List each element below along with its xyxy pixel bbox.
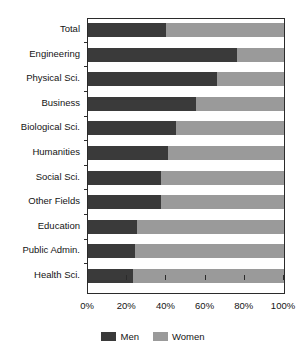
bar-segment-men: [88, 23, 166, 37]
y-axis-tick: [84, 189, 88, 190]
x-axis-tick-label: 60%: [195, 300, 214, 311]
x-axis-tick: [205, 275, 206, 280]
x-axis-tick: [126, 275, 127, 280]
bar-segment-women: [161, 195, 284, 209]
bar-row: [88, 269, 284, 283]
bar-segment-women: [168, 146, 284, 160]
y-axis-tick: [84, 165, 88, 166]
bar-row: [88, 244, 284, 258]
plot-area: [87, 18, 285, 294]
bar-row: [88, 48, 284, 62]
bar-row: [88, 195, 284, 209]
bar-row: [88, 171, 284, 185]
x-axis-tick-labels: 0%20%40%60%80%100%: [0, 300, 306, 314]
y-axis-tick: [84, 91, 88, 92]
y-axis-tick: [84, 263, 88, 264]
x-axis-tick-label: 20%: [117, 300, 136, 311]
y-axis-label-other-fields: Other Fields: [0, 196, 80, 206]
bar-segment-men: [88, 48, 237, 62]
legend-label-women: Women: [172, 331, 205, 342]
bar-row: [88, 121, 284, 135]
x-axis-tick-label: 100%: [271, 300, 295, 311]
x-axis-tick: [87, 275, 88, 280]
legend-swatch-women: [153, 332, 168, 341]
y-axis-label-engineering: Engineering: [0, 49, 80, 59]
bar-segment-men: [88, 121, 176, 135]
legend-label-men: Men: [120, 331, 138, 342]
bar-segment-men: [88, 195, 161, 209]
y-axis-tick: [84, 42, 88, 43]
y-axis-label-social-sci: Social Sci.: [0, 172, 80, 182]
bar-row: [88, 220, 284, 234]
x-axis-tick: [283, 275, 284, 280]
y-axis-category-labels: TotalEngineeringPhysical Sci.BusinessBio…: [0, 18, 84, 292]
bar-segment-men: [88, 244, 135, 258]
y-axis-tick: [84, 140, 88, 141]
y-axis-label-biological-sci: Biological Sci.: [0, 122, 80, 132]
bar-row: [88, 72, 284, 86]
legend-item-men[interactable]: Men: [101, 331, 138, 342]
x-axis-tick-label: 40%: [156, 300, 175, 311]
bar-segment-women: [196, 97, 284, 111]
legend-item-women[interactable]: Women: [153, 331, 205, 342]
y-axis-tick: [84, 214, 88, 215]
chart-legend: MenWomen: [0, 331, 306, 342]
y-axis-tick: [84, 116, 88, 117]
bar-segment-men: [88, 146, 168, 160]
bar-segment-women: [166, 23, 284, 37]
bar-segment-men: [88, 171, 161, 185]
y-axis-tick: [84, 66, 88, 67]
bar-segment-women: [133, 269, 284, 283]
bar-segment-women: [135, 244, 284, 258]
x-axis-tick: [165, 275, 166, 280]
bar-row: [88, 23, 284, 37]
y-axis-label-public-admin: Public Admin.: [0, 245, 80, 255]
y-axis-label-total: Total: [0, 24, 80, 34]
y-axis-label-humanities: Humanities: [0, 147, 80, 157]
y-axis-label-physical-sci: Physical Sci.: [0, 73, 80, 83]
bar-segment-men: [88, 220, 137, 234]
y-axis-tick: [84, 239, 88, 240]
bar-segment-women: [217, 72, 284, 86]
y-axis-label-health-sci: Health Sci.: [0, 270, 80, 280]
bar-segment-women: [176, 121, 284, 135]
stacked-bar-chart: TotalEngineeringPhysical Sci.BusinessBio…: [0, 0, 306, 359]
bar-segment-men: [88, 97, 196, 111]
bar-segment-women: [137, 220, 284, 234]
bar-segment-women: [237, 48, 284, 62]
bar-segment-men: [88, 72, 217, 86]
y-axis-label-education: Education: [0, 221, 80, 231]
legend-swatch-men: [101, 332, 116, 341]
bar-row: [88, 146, 284, 160]
y-axis-label-business: Business: [0, 98, 80, 108]
bar-segment-women: [161, 171, 284, 185]
x-axis-tick-label: 0%: [80, 300, 94, 311]
bar-row: [88, 97, 284, 111]
x-axis-tick-label: 80%: [234, 300, 253, 311]
x-axis-tick: [244, 275, 245, 280]
